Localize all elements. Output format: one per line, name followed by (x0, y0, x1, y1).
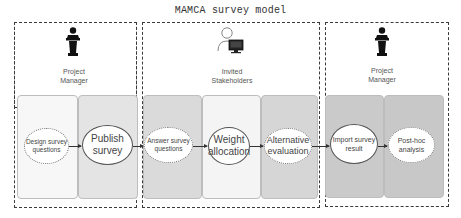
arrow-answer-to-weight (193, 146, 207, 147)
arrow-design-to-publish (69, 146, 81, 147)
arrow-alternative-to-import (312, 146, 329, 147)
user-computer-icon (217, 26, 245, 54)
role-label-invited-stakeholders: Invited Stakeholders (200, 67, 264, 85)
podium-speaker-icon (65, 27, 81, 57)
node-design-survey-questions[interactable]: Design surveyquestions (24, 128, 69, 164)
node-import-survey-result[interactable]: Import surveyresult (330, 124, 378, 164)
node-alternative-evaluation[interactable]: Alternativeevaluation (264, 128, 312, 164)
podium-speaker-icon (374, 27, 390, 57)
arrow-weight-to-alternative (250, 146, 263, 147)
role-label-project-manager-2: Project Manager (352, 66, 412, 84)
node-publish-survey[interactable]: Publishsurvey (82, 125, 133, 165)
node-answer-survey-questions[interactable]: Answer surveyquestions (144, 127, 193, 163)
node-weight-allocation[interactable]: Weightallocation (208, 127, 250, 165)
arrow-publish-to-answer (133, 146, 143, 147)
diagram-title: MAMCA survey model (0, 5, 461, 16)
role-label-project-manager-1: Project Manager (44, 67, 104, 85)
arrow-import-to-posthoc (378, 146, 387, 147)
node-post-hoc-analysis[interactable]: Post-hocanalysis (388, 127, 435, 163)
